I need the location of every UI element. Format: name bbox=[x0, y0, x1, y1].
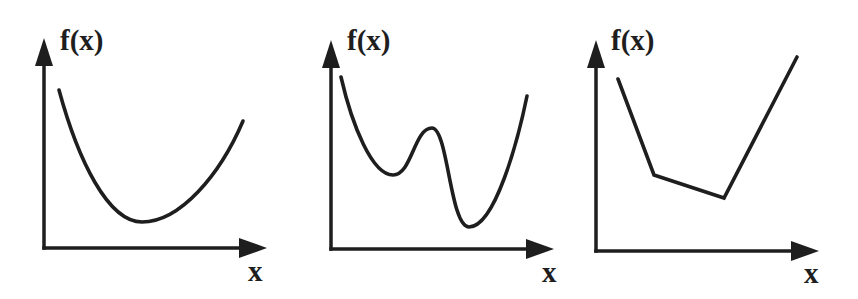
panel-non-convex: f(x) x bbox=[322, 24, 557, 288]
y-axis-label: f(x) bbox=[60, 24, 103, 57]
panel-convex-smooth: f(x) x bbox=[35, 24, 267, 287]
y-axis-label: f(x) bbox=[611, 24, 654, 57]
x-axis-label: x bbox=[542, 256, 557, 288]
function-curve bbox=[59, 90, 243, 222]
y-axis-arrow-icon bbox=[587, 40, 605, 68]
panel-convex-piecewise-linear: f(x) x bbox=[587, 24, 819, 289]
y-axis-label: f(x) bbox=[347, 24, 390, 57]
function-curve bbox=[618, 57, 797, 198]
figure: f(x) x f(x) x f(x) x bbox=[0, 0, 858, 299]
y-axis-arrow-icon bbox=[35, 38, 53, 66]
x-axis-label: x bbox=[804, 257, 819, 289]
x-axis-label: x bbox=[248, 255, 263, 287]
y-axis-arrow-icon bbox=[322, 40, 340, 68]
function-curve bbox=[341, 77, 527, 227]
